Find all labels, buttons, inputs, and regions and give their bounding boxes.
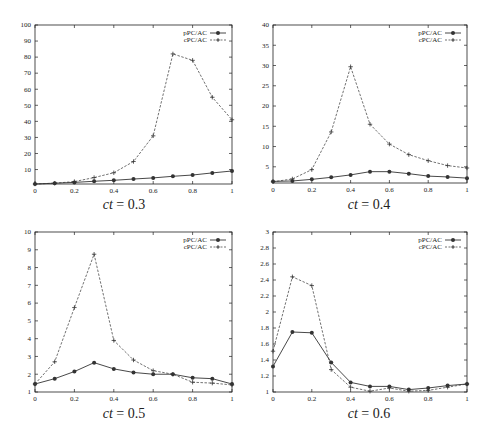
legend-label: cPC/AC: [184, 36, 208, 44]
diamond-marker-icon: [132, 370, 136, 374]
diamond-marker-icon: [216, 31, 220, 35]
y-tick-label: 15: [262, 123, 270, 131]
x-tick-label: 0.4: [346, 395, 355, 403]
diamond-marker-icon: [112, 178, 116, 182]
legend: pPC/ACcPC/AC: [183, 236, 226, 251]
y-tick-label: 2.2: [260, 292, 269, 300]
y-tick-label: 20: [24, 150, 32, 158]
y-tick-label: 1.8: [260, 324, 269, 332]
y-tick-label: 6: [28, 299, 32, 307]
caption-value: = 0.4: [358, 197, 390, 212]
y-tick-label: 30: [24, 134, 32, 142]
series-cpc-ac: [271, 65, 469, 184]
panel-ct-0-3: 00.20.40.60.81102030405060708090100pPC/A…: [21, 21, 235, 212]
x-tick-label: 0.4: [109, 395, 118, 403]
caption-value: = 0.5: [113, 406, 145, 421]
legend: pPC/ACcPC/AC: [183, 29, 226, 44]
x-tick-label: 1: [230, 187, 234, 195]
y-tick-label: 20: [262, 102, 270, 110]
y-tick-label: 8: [28, 264, 32, 272]
plus-marker-icon: [72, 305, 76, 309]
diamond-marker-icon: [92, 179, 96, 183]
plot-frame: [273, 25, 467, 183]
plus-marker-icon: [92, 252, 96, 256]
plus-marker-icon: [310, 167, 314, 171]
plus-marker-icon: [465, 382, 469, 386]
plot-frame: [273, 232, 467, 392]
diamond-marker-icon: [271, 364, 275, 368]
x-tick-label: 1: [465, 186, 469, 194]
diamond-marker-icon: [387, 170, 391, 174]
y-tick-label: 35: [262, 42, 270, 50]
y-tick-label: 40: [24, 118, 32, 126]
series-cpc-ac: [271, 275, 469, 394]
y-tick-label: 5: [266, 163, 270, 171]
diamond-marker-icon: [171, 174, 175, 178]
figure: 00.20.40.60.81102030405060708090100pPC/A…: [0, 0, 488, 435]
y-tick-label: 10: [262, 143, 270, 151]
diamond-marker-icon: [210, 377, 214, 381]
diamond-marker-icon: [368, 384, 372, 388]
plus-marker-icon: [368, 389, 372, 393]
diamond-marker-icon: [290, 330, 294, 334]
y-tick-label: 90: [24, 37, 32, 45]
x-tick-label: 0.2: [70, 187, 79, 195]
diamond-marker-icon: [349, 380, 353, 384]
diamond-marker-icon: [230, 169, 234, 173]
y-tick-label: 100: [21, 21, 32, 29]
diamond-marker-icon: [349, 173, 353, 177]
diamond-marker-icon: [216, 238, 220, 242]
x-tick-label: 1: [230, 395, 234, 403]
plus-marker-icon: [151, 368, 155, 372]
y-tick-label: 2.6: [260, 260, 269, 268]
plot-frame: [35, 232, 232, 392]
y-tick-label: 30: [262, 62, 270, 70]
x-tick-label: 0.4: [109, 187, 118, 195]
legend-label: cPC/AC: [419, 243, 443, 251]
plus-marker-icon: [171, 52, 175, 56]
series-ppc-ac: [271, 170, 469, 184]
panel-ct-0-4: 00.20.40.60.81510152025303540pPC/ACcPC/A…: [262, 21, 469, 212]
plus-marker-icon: [112, 338, 116, 342]
diamond-marker-icon: [465, 176, 469, 180]
panel-caption: ct = 0.4: [348, 197, 391, 212]
plus-marker-icon: [190, 58, 194, 62]
x-tick-label: 0.6: [385, 395, 394, 403]
y-tick-label: 3: [28, 353, 32, 361]
y-tick-label: 10: [24, 228, 32, 236]
plus-marker-icon: [329, 130, 333, 134]
series-line: [35, 54, 232, 184]
caption-value: = 0.3: [113, 197, 145, 212]
plus-marker-icon: [216, 245, 220, 249]
x-tick-label: 0.6: [385, 186, 394, 194]
series-line: [273, 277, 467, 391]
y-tick-label: 1.6: [260, 340, 269, 348]
y-tick-label: 1: [28, 388, 32, 396]
diamond-marker-icon: [451, 238, 455, 242]
legend: pPC/ACcPC/AC: [418, 29, 461, 44]
plus-marker-icon: [216, 38, 220, 42]
plus-marker-icon: [407, 152, 411, 156]
diamond-marker-icon: [132, 177, 136, 181]
plus-marker-icon: [290, 275, 294, 279]
x-tick-label: 0.2: [307, 395, 316, 403]
panel-ct-0-6: 00.20.40.60.8111.21.41.61.822.22.42.62.8…: [260, 228, 469, 421]
y-tick-label: 50: [24, 102, 32, 110]
y-tick-label: 80: [24, 53, 32, 61]
y-tick-label: 9: [28, 246, 32, 254]
diamond-marker-icon: [310, 331, 314, 335]
panel-caption: ct = 0.6: [348, 406, 391, 421]
diamond-marker-icon: [112, 367, 116, 371]
plus-marker-icon: [329, 367, 333, 371]
plus-marker-icon: [445, 163, 449, 167]
plus-marker-icon: [310, 283, 314, 287]
plus-marker-icon: [112, 171, 116, 175]
x-tick-label: 0.2: [307, 186, 316, 194]
diamond-marker-icon: [329, 175, 333, 179]
x-tick-label: 0.6: [149, 395, 158, 403]
diamond-marker-icon: [72, 370, 76, 374]
diamond-marker-icon: [368, 170, 372, 174]
y-tick-label: 3: [266, 228, 270, 236]
plus-marker-icon: [271, 349, 275, 353]
diamond-marker-icon: [151, 176, 155, 180]
